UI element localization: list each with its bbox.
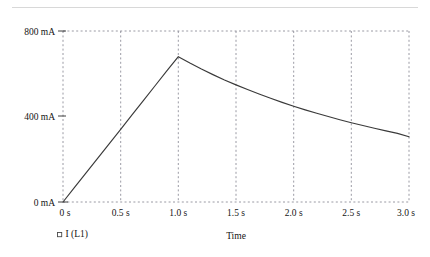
ytick-label-0: 0 mA (34, 198, 56, 208)
grid-lines (63, 31, 409, 202)
ytick-label-800: 800 mA (24, 27, 55, 37)
chart-container: 800 mA 400 mA 0 mA 0 s 0.5 s 1.0 s 1.5 s… (0, 0, 430, 257)
xtick-label-3.0: 3.0 s (397, 208, 415, 218)
xtick-label-0.5: 0.5 s (112, 208, 130, 218)
xtick-label-2.0: 2.0 s (285, 208, 303, 218)
ytick-label-400: 400 mA (24, 112, 55, 122)
legend-marker-icon (58, 233, 62, 237)
xtick-label-0: 0 s (60, 208, 71, 218)
legend[interactable]: I (L1) (58, 229, 88, 240)
x-axis-title: Time (226, 231, 246, 241)
xtick-label-1.0: 1.0 s (169, 208, 187, 218)
legend-label-i-l1: I (L1) (66, 229, 88, 240)
xtick-label-2.5: 2.5 s (342, 208, 360, 218)
xtick-label-1.5: 1.5 s (227, 208, 245, 218)
current-vs-time-plot: 800 mA 400 mA 0 mA 0 s 0.5 s 1.0 s 1.5 s… (0, 0, 430, 257)
y-axis-tick-labels: 800 mA 400 mA 0 mA (24, 27, 55, 208)
x-axis-tick-labels: 0 s 0.5 s 1.0 s 1.5 s 2.0 s 2.5 s 3.0 s (60, 208, 416, 218)
